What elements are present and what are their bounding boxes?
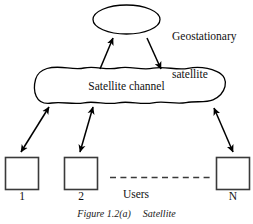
downlink-arrow [147, 38, 161, 69]
geostationary-satellite-label-line1: Geostationary [172, 30, 252, 43]
users-group-label: Users [105, 188, 167, 201]
user-box-n-label: N [216, 190, 250, 203]
user-box-1-label: 1 [5, 190, 39, 203]
usern-channel-arrow [214, 108, 233, 152]
geostationary-satellite-ellipse [93, 5, 160, 34]
figure-caption-number: Figure 1.2(a) [77, 208, 131, 219]
user2-channel-arrow [80, 107, 93, 152]
user-box-2 [65, 158, 98, 190]
uplink-arrow [100, 38, 113, 69]
satellite-channel-label: Satellite channel [0, 80, 253, 93]
user-box-n [217, 158, 250, 190]
user-box-1 [6, 158, 39, 190]
figure-caption: Figure 1.2(a)Satellite [0, 208, 253, 219]
figure-caption-title: Satellite [143, 208, 176, 219]
user-box-2-label: 2 [64, 190, 98, 203]
user1-channel-arrow [21, 107, 49, 152]
satellite-network-figure: Geostationary satellite Satellite channe… [0, 0, 253, 224]
